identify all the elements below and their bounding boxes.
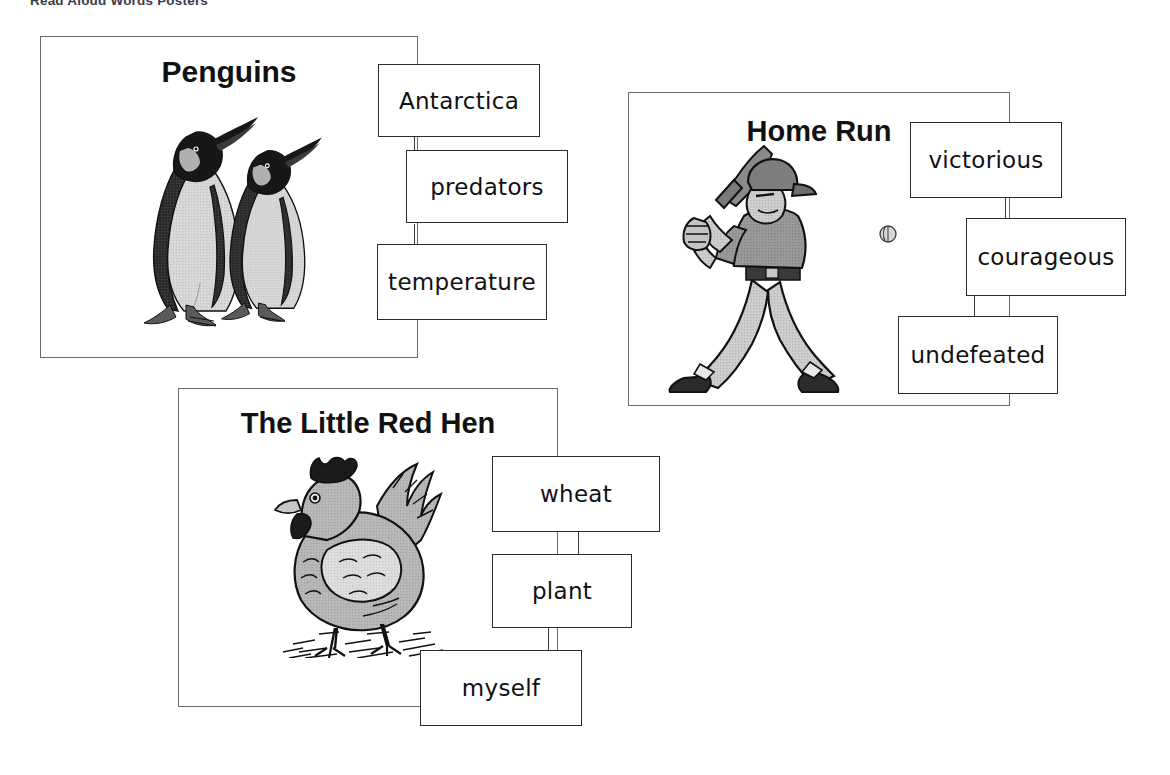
word-card-victorious[interactable]: victorious — [910, 122, 1062, 198]
baseball-icon — [878, 224, 898, 244]
baseball-batter-illustration — [660, 140, 880, 395]
page-title: Read Aloud Words Posters — [30, 0, 208, 8]
poster-canvas: Read Aloud Words Posters Penguins — [0, 0, 1170, 775]
hen-illustration — [253, 444, 485, 658]
word-card-plant[interactable]: plant — [492, 554, 632, 628]
word-card-antarctica[interactable]: Antarctica — [378, 64, 540, 137]
connector-line — [578, 532, 579, 554]
poster-title-penguins: Penguins — [41, 55, 417, 89]
connector-line — [974, 294, 975, 318]
word-card-courageous[interactable]: courageous — [966, 218, 1126, 296]
penguins-illustration — [140, 105, 325, 337]
word-label: predators — [430, 174, 544, 200]
word-card-wheat[interactable]: wheat — [492, 456, 660, 532]
connector-line — [414, 224, 415, 246]
word-label: victorious — [928, 147, 1043, 173]
word-label: undefeated — [910, 342, 1045, 368]
word-card-predators[interactable]: predators — [406, 150, 568, 223]
connector-line — [548, 628, 549, 650]
poster-title-little-red-hen: The Little Red Hen — [179, 407, 557, 440]
word-card-myself[interactable]: myself — [420, 650, 582, 726]
word-label: wheat — [540, 481, 612, 507]
connector-line — [1005, 198, 1006, 220]
word-card-undefeated[interactable]: undefeated — [898, 316, 1058, 394]
word-label: Antarctica — [399, 88, 519, 114]
word-label: courageous — [977, 244, 1114, 270]
word-label: plant — [532, 578, 592, 604]
word-label: temperature — [388, 269, 536, 295]
word-label: myself — [462, 675, 540, 701]
word-card-temperature[interactable]: temperature — [377, 244, 547, 320]
